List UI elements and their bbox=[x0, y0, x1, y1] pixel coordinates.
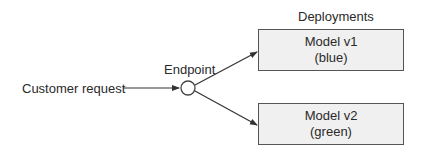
customer-request-label: Customer request bbox=[22, 81, 125, 96]
deployment-name: Model v1 bbox=[305, 34, 358, 50]
deployment-variant: (green) bbox=[310, 124, 352, 140]
deployment-box-v2: Model v2 (green) bbox=[258, 103, 404, 145]
deployment-box-v1: Model v1 (blue) bbox=[258, 29, 404, 71]
deployment-variant: (blue) bbox=[314, 50, 347, 66]
deployment-name: Model v2 bbox=[305, 108, 358, 124]
endpoint-node bbox=[181, 81, 195, 95]
endpoint-label: Endpoint bbox=[164, 62, 215, 77]
route-arrow-v2 bbox=[195, 91, 257, 125]
deployments-label: Deployments bbox=[298, 9, 374, 24]
